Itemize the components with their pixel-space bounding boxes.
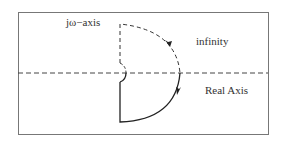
contour-upper-dashed [120, 24, 180, 73]
nyquist-diagram: jω−axis infinity Real Axis [0, 0, 283, 144]
indentation-upper [120, 63, 126, 73]
real-axis-label: Real Axis [205, 85, 248, 96]
diagram-canvas [0, 0, 283, 144]
arrow-upper-icon [165, 40, 172, 47]
indentation-lower [120, 73, 126, 82]
jw-axis-label: jω−axis [66, 17, 100, 28]
contour-lower-solid [120, 73, 180, 122]
arrow-lower-icon [176, 87, 181, 95]
infinity-label: infinity [196, 36, 228, 47]
